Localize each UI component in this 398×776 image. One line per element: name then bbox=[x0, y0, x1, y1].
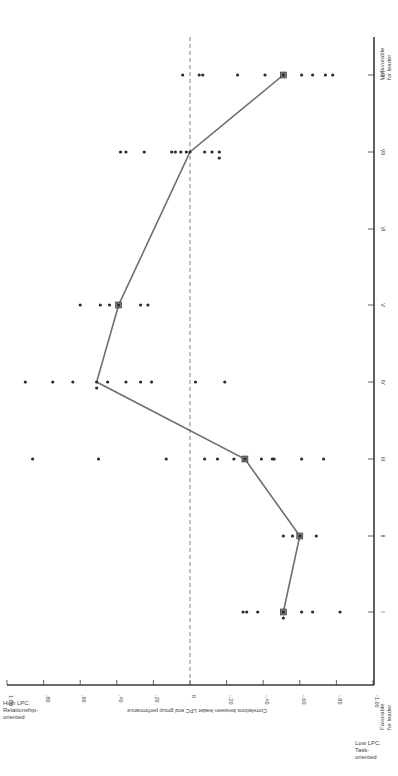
study-point bbox=[256, 610, 259, 613]
study-point bbox=[108, 303, 111, 306]
tick-labels: 1.00.80.60.40.200-.20-.40-.60-.80-1.00II… bbox=[8, 71, 386, 708]
study-point bbox=[194, 380, 197, 383]
study-point bbox=[188, 150, 191, 153]
y-tick-label: -.20 bbox=[228, 695, 234, 704]
y-tick-label: -.60 bbox=[301, 695, 307, 704]
median-path bbox=[97, 75, 300, 612]
y-tick-label: .60 bbox=[81, 695, 87, 703]
study-point bbox=[223, 380, 226, 383]
study-point bbox=[79, 303, 82, 306]
study-point bbox=[119, 150, 122, 153]
study-point bbox=[322, 457, 325, 460]
study-point bbox=[185, 150, 188, 153]
study-point bbox=[146, 303, 149, 306]
study-point bbox=[174, 150, 177, 153]
study-point bbox=[218, 156, 221, 159]
study-point bbox=[236, 73, 239, 76]
study-point bbox=[315, 534, 318, 537]
study-point bbox=[24, 380, 27, 383]
study-point bbox=[245, 610, 248, 613]
study-point bbox=[300, 457, 303, 460]
study-point bbox=[282, 616, 285, 619]
study-point bbox=[31, 457, 34, 460]
study-points bbox=[24, 73, 342, 619]
study-point bbox=[165, 457, 168, 460]
study-point bbox=[106, 380, 109, 383]
study-point bbox=[210, 150, 213, 153]
study-point bbox=[331, 73, 334, 76]
study-point bbox=[99, 303, 102, 306]
study-point bbox=[324, 73, 327, 76]
octant-label-III: III bbox=[380, 457, 386, 462]
study-point bbox=[124, 380, 127, 383]
y-tick-label: .20 bbox=[154, 695, 160, 703]
study-point bbox=[117, 303, 120, 306]
study-point bbox=[51, 380, 54, 383]
study-point bbox=[291, 534, 294, 537]
octant-label-IV: IV bbox=[380, 379, 386, 385]
octant-label-I: I bbox=[380, 611, 386, 613]
study-point bbox=[198, 73, 201, 76]
octant-label-VII: VII bbox=[380, 149, 386, 156]
study-point bbox=[232, 457, 235, 460]
study-point bbox=[311, 610, 314, 613]
low-lpc-label: Low LPC: Task- oriented bbox=[355, 740, 381, 761]
axes bbox=[7, 37, 374, 685]
study-point bbox=[203, 150, 206, 153]
study-point bbox=[139, 380, 142, 383]
study-point bbox=[216, 457, 219, 460]
unfavorable-label: Unfavorable for leader bbox=[379, 48, 393, 80]
y-axis-title: Correlations between leader LPC and grou… bbox=[97, 707, 297, 714]
study-point bbox=[241, 610, 244, 613]
study-point bbox=[179, 150, 182, 153]
study-point bbox=[143, 150, 146, 153]
high-lpc-label: High LPC: Relationship- oriented bbox=[3, 700, 38, 721]
study-point bbox=[95, 386, 98, 389]
study-point bbox=[124, 150, 127, 153]
y-tick-label: .80 bbox=[45, 695, 51, 703]
study-point bbox=[282, 610, 285, 613]
study-point bbox=[71, 380, 74, 383]
octant-label-VI: VI bbox=[380, 226, 386, 232]
octant-label-V: V bbox=[380, 303, 386, 307]
study-point bbox=[300, 73, 303, 76]
study-point bbox=[218, 150, 221, 153]
study-point bbox=[170, 150, 173, 153]
y-tick-label: -.80 bbox=[337, 695, 343, 704]
study-point bbox=[338, 610, 341, 613]
study-point bbox=[263, 73, 266, 76]
y-tick-label: -.40 bbox=[264, 695, 270, 704]
study-point bbox=[95, 380, 98, 383]
favorable-label: Favorable for leader bbox=[379, 703, 393, 730]
study-point bbox=[300, 610, 303, 613]
study-point bbox=[243, 457, 246, 460]
study-point bbox=[97, 457, 100, 460]
study-point bbox=[203, 457, 206, 460]
y-tick-label: .40 bbox=[118, 695, 124, 703]
study-point bbox=[311, 73, 314, 76]
study-point bbox=[298, 534, 301, 537]
study-point bbox=[139, 303, 142, 306]
study-point bbox=[282, 73, 285, 76]
study-point bbox=[282, 534, 285, 537]
study-point bbox=[273, 457, 276, 460]
y-tick-label: 0 bbox=[191, 695, 197, 698]
lpc-correlation-chart: 1.00.80.60.40.200-.20-.40-.60-.80-1.00II… bbox=[0, 0, 398, 776]
study-point bbox=[201, 73, 204, 76]
study-point bbox=[260, 457, 263, 460]
study-point bbox=[150, 380, 153, 383]
study-point bbox=[181, 73, 184, 76]
octant-label-II: II bbox=[380, 534, 386, 538]
median-line bbox=[97, 72, 303, 615]
